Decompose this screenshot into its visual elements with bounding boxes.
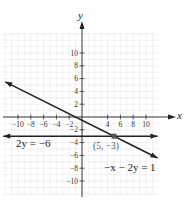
x-tick-label: 10: [142, 120, 150, 129]
y-tick-label: 10: [71, 49, 79, 58]
y-tick-label: 4: [74, 87, 78, 96]
y-axis-arrow-icon: [80, 21, 85, 29]
y-tick-label: −8: [70, 164, 78, 173]
x-tick-label: −8: [27, 120, 35, 129]
x-axis-arrow-icon: [168, 115, 176, 120]
y-tick-label: 6: [74, 74, 78, 83]
equation-label-diagonal: −x − 2y = 1: [104, 162, 156, 173]
x-axis-label: x: [177, 110, 182, 121]
y-axis-label: y: [78, 10, 83, 21]
x-tick-label: 8: [131, 120, 135, 129]
intersection-point-label: (5, −3): [93, 142, 119, 152]
y-tick-label: −6: [70, 151, 78, 160]
x-tick-label: 4: [106, 120, 110, 129]
y-tick-label: −4: [70, 138, 78, 147]
equation-label-horizontal: 2y = −6: [16, 138, 50, 149]
intersection-point-marker: [112, 134, 117, 139]
line-arrow-icon: [151, 134, 158, 139]
x-tick-label: 6: [119, 120, 123, 129]
y-tick-label: −10: [66, 177, 78, 186]
y-tick-label: 8: [74, 61, 78, 70]
x-tick-label: −4: [52, 120, 60, 129]
x-tick-label: −10: [12, 120, 24, 129]
y-tick-label: 2: [74, 100, 78, 109]
x-tick-label: −6: [40, 120, 48, 129]
coordinate-graph: −10−8−6−4−246810108642−2−4−6−8−10: [0, 0, 185, 201]
line-arrow-icon: [3, 134, 10, 139]
y-tick-label: −2: [70, 125, 78, 134]
